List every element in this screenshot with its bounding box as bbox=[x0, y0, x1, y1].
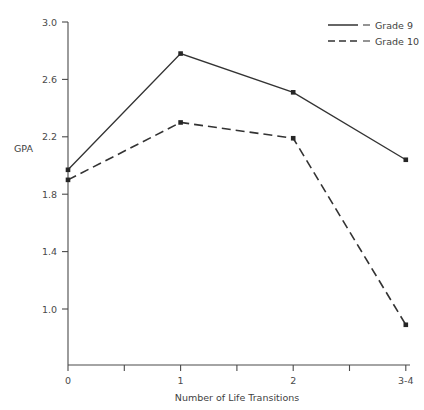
y-tick-label: 1.8 bbox=[42, 189, 57, 200]
chart-legend: Grade 9 Grade 10 bbox=[328, 20, 419, 47]
y-tick-label: 1.0 bbox=[42, 304, 57, 315]
data-point-marker bbox=[66, 168, 71, 173]
x-tick-label: 3-4 bbox=[398, 375, 414, 386]
y-tick-label: 3.0 bbox=[42, 17, 57, 28]
y-axis-title: GPA bbox=[14, 143, 33, 154]
x-axis-ticks bbox=[68, 365, 406, 371]
data-point-marker bbox=[404, 157, 409, 162]
data-point-marker bbox=[291, 90, 296, 95]
data-point-marker bbox=[404, 322, 409, 327]
x-tick-label: 1 bbox=[178, 375, 184, 386]
x-axis-title: Number of Life Transitions bbox=[175, 392, 299, 403]
y-tick-label: 1.4 bbox=[42, 246, 57, 257]
x-tick-label: 2 bbox=[290, 375, 296, 386]
y-tick-label: 2.2 bbox=[42, 131, 57, 142]
gpa-life-transitions-chart: 3.0 2.6 2.2 1.8 1.4 1.0 GPA 0 1 2 3-4 Nu bbox=[0, 0, 424, 410]
x-axis-tick-labels: 0 1 2 3-4 bbox=[65, 375, 414, 386]
data-point-marker bbox=[178, 51, 183, 56]
series-markers-grade-10 bbox=[66, 120, 408, 327]
y-tick-label: 2.6 bbox=[42, 74, 57, 85]
chart-canvas: 3.0 2.6 2.2 1.8 1.4 1.0 GPA 0 1 2 3-4 Nu bbox=[0, 0, 424, 410]
data-point-marker bbox=[66, 178, 71, 183]
series-markers-grade-9 bbox=[66, 51, 408, 172]
data-point-marker bbox=[291, 136, 296, 141]
series-line-grade-9 bbox=[68, 54, 406, 170]
legend-label-grade-10: Grade 10 bbox=[375, 36, 419, 47]
y-axis-tick-labels: 3.0 2.6 2.2 1.8 1.4 1.0 bbox=[42, 17, 57, 315]
data-point-marker bbox=[178, 120, 183, 125]
x-tick-label: 0 bbox=[65, 375, 71, 386]
legend-label-grade-9: Grade 9 bbox=[375, 20, 413, 31]
series-line-grade-10 bbox=[68, 122, 406, 324]
y-axis-ticks bbox=[62, 22, 68, 309]
